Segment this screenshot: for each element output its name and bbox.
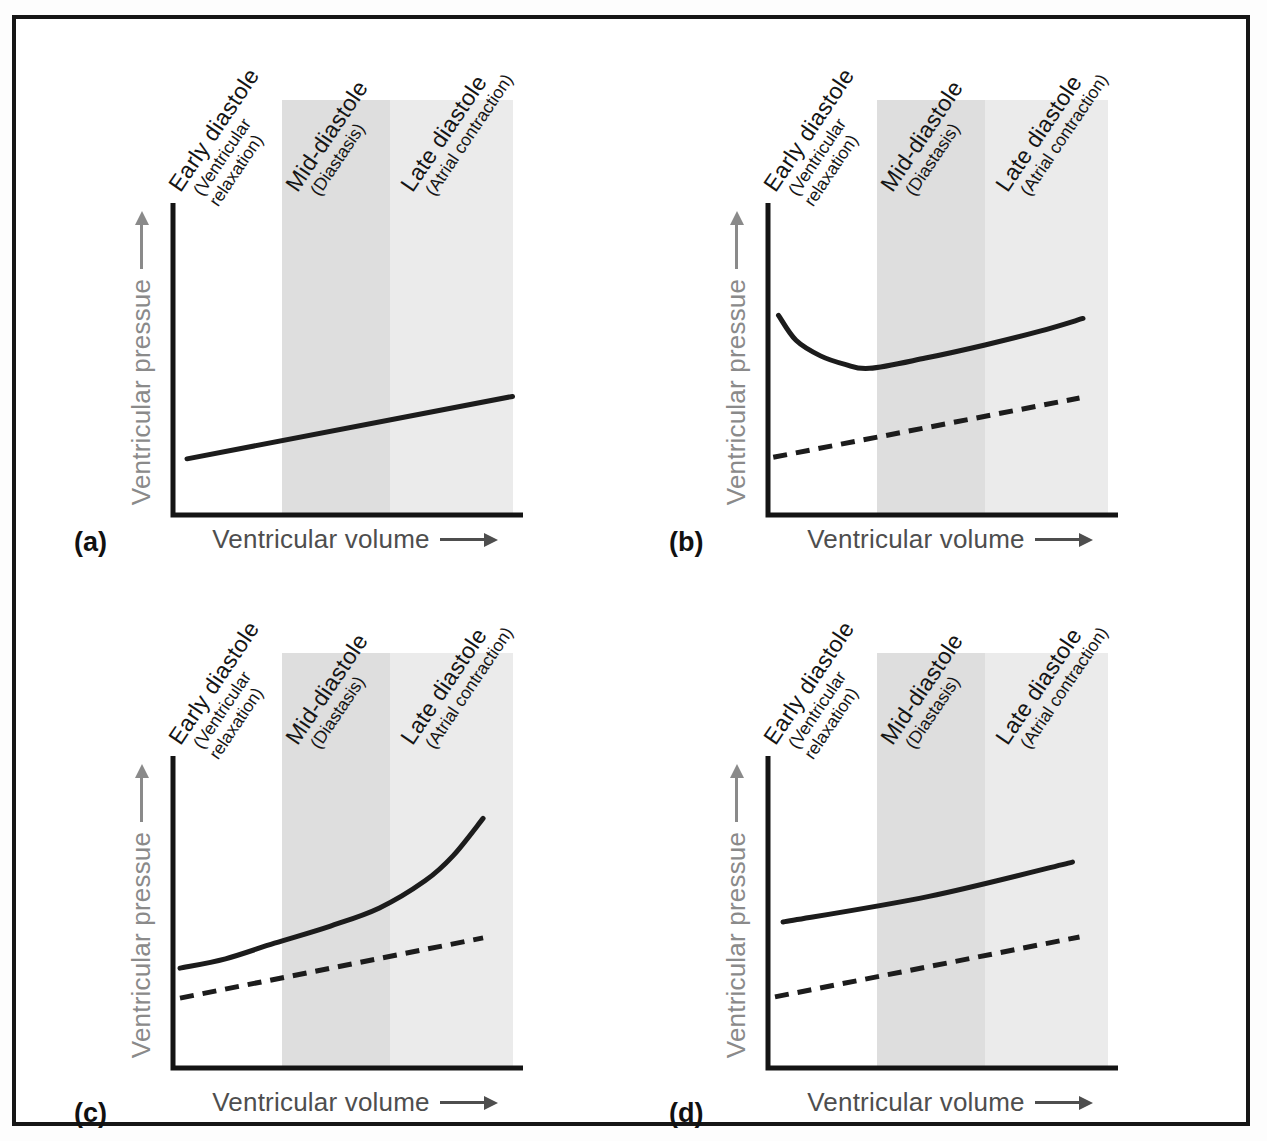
y-axis-label-text: Ventricular pressue [126,279,157,505]
right-arrow-icon [440,538,484,541]
y-axis-label: Ventricular pressue [126,209,157,521]
right-arrow-icon [440,1101,484,1104]
x-axis-label-text: Ventricular volume [212,1087,429,1118]
x-axis-label: Ventricular volume [768,524,1118,555]
y-axis-label-text: Ventricular pressue [721,832,752,1058]
y-axis-label: Ventricular pressue [126,762,157,1074]
y-axis-label: Ventricular pressue [721,762,752,1074]
chart-panel-c: Early diastole (Ventricular relaxation) … [52,593,647,1141]
x-axis-label-text: Ventricular volume [212,524,429,555]
y-axis-label: Ventricular pressue [721,209,752,521]
axes-lines [768,203,1118,515]
up-arrow-icon [140,778,143,822]
axes-lines [173,756,523,1068]
x-axis-label: Ventricular volume [173,1087,523,1118]
x-axis-label: Ventricular volume [768,1087,1118,1118]
up-arrow-icon [140,225,143,269]
x-axis-label: Ventricular volume [173,524,523,555]
panel-letter-a: (a) [74,527,107,558]
up-arrow-icon [735,778,738,822]
chart-panel-a: Early diastole (Ventricular relaxation) … [52,40,647,595]
series-pressure-curve [779,315,1084,368]
panel-letter-c: (c) [74,1098,107,1129]
chart-panel-b: Early diastole (Ventricular relaxation) … [647,40,1242,595]
series-reference-curve [773,398,1079,457]
axes-lines [173,203,523,515]
x-axis-label-text: Ventricular volume [807,524,1024,555]
y-axis-label-text: Ventricular pressue [721,279,752,505]
panel-letter-b: (b) [669,527,703,558]
right-arrow-icon [1035,1101,1079,1104]
chart-panel-d: Early diastole (Ventricular relaxation) … [647,593,1242,1141]
series-pressure-curve [187,396,513,458]
axes-lines [768,756,1118,1068]
panel-letter-d: (d) [669,1098,703,1129]
series-reference-curve [775,937,1080,997]
series-pressure-curve [783,862,1072,922]
right-arrow-icon [1035,538,1079,541]
y-axis-label-text: Ventricular pressue [126,832,157,1058]
series-reference-curve [180,938,483,998]
x-axis-label-text: Ventricular volume [807,1087,1024,1118]
up-arrow-icon [735,225,738,269]
